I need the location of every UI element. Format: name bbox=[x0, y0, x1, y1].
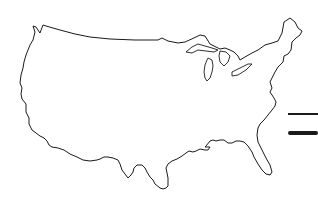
us-outline bbox=[20, 18, 302, 189]
lake-michigan bbox=[204, 58, 213, 81]
us-map bbox=[0, 0, 318, 199]
lake-erie bbox=[232, 64, 252, 76]
legend-thick-line bbox=[288, 131, 318, 135]
legend-thin-line bbox=[288, 113, 318, 115]
lake-huron bbox=[219, 51, 230, 66]
